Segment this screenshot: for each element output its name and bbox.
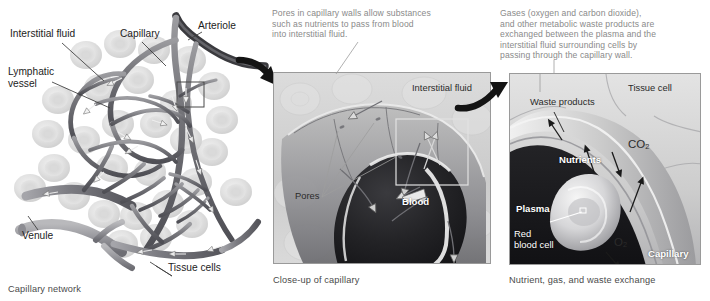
caption-capillary-network: Capillary network (8, 284, 81, 294)
callout-right-panel: Gases (oxygen and carbon dioxide), and o… (500, 8, 706, 61)
label-tissue-cells: Tissue cells (168, 262, 221, 274)
label-waste-products: Waste products (530, 96, 595, 107)
label-nutrients: Nutrients (559, 154, 601, 165)
label-blood: Blood (402, 196, 429, 207)
label-pores: Pores (295, 190, 320, 201)
callout-leader-middle (330, 40, 370, 80)
label-tissue-cell: Tissue cell (628, 82, 672, 93)
capillary-network-illustration (0, 0, 265, 301)
arrow-middle-to-right (456, 76, 512, 118)
callout-middle-panel: Pores in capillary walls allow substance… (272, 8, 460, 40)
co2-text: CO (628, 138, 645, 150)
label-lymphatic-vessel: Lymphatic vessel (8, 66, 54, 89)
label-arteriole: Arteriole (198, 20, 236, 32)
label-oxygen: O2 (614, 226, 627, 250)
label-carbon-dioxide: CO2 (628, 128, 649, 152)
label-venule: Venule (22, 230, 53, 242)
co2-subscript: 2 (645, 142, 649, 151)
o2-subscript: 2 (623, 240, 627, 249)
label-capillary-right: Capillary (648, 248, 689, 259)
capillary-exchange-figure: Interstitial fluid Capillary Arteriole L… (0, 0, 710, 301)
caption-nutrient-gas-waste-exchange: Nutrient, gas, and waste exchange (509, 275, 655, 285)
label-capillary-left: Capillary (120, 28, 160, 40)
o2-text: O (614, 236, 623, 248)
label-interstitial-fluid: Interstitial fluid (10, 28, 75, 40)
caption-close-up-of-capillary: Close-up of capillary (273, 275, 359, 285)
label-plasma: Plasma (516, 203, 550, 214)
label-red-blood-cell: Red blood cell (514, 228, 554, 250)
